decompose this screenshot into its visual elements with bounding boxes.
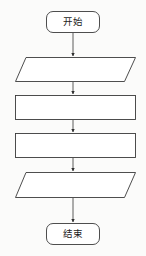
node-io-1[interactable] — [16, 58, 136, 82]
node-process-1[interactable] — [16, 96, 136, 120]
flowchart-shapes — [0, 0, 146, 256]
flowchart-canvas: 开始 结束 — [0, 0, 146, 256]
node-process-2[interactable] — [16, 134, 136, 158]
node-io-2[interactable] — [16, 173, 136, 198]
node-start[interactable] — [47, 12, 100, 33]
node-end[interactable] — [47, 224, 100, 245]
